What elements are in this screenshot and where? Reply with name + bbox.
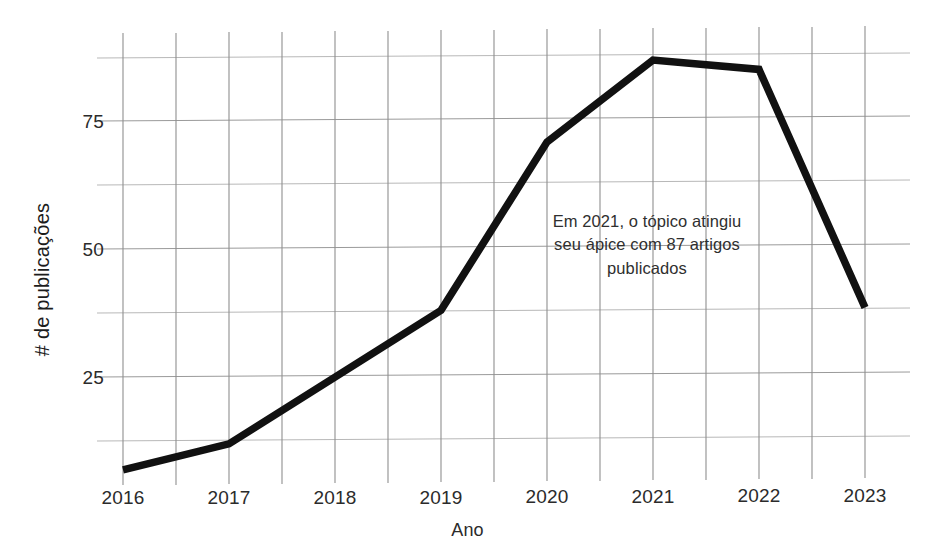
x-axis-tick-2020: 2020 [502,486,592,508]
x-axis-tick-2018: 2018 [290,487,380,509]
x-axis-title: Ano [0,520,935,541]
x-axis-tick-2023: 2023 [820,485,910,507]
horizontal-gridlines [97,53,910,441]
x-axis-tick-2019: 2019 [396,487,486,509]
x-axis-tick-2017: 2017 [184,487,274,509]
y-axis-tick-75: 75 [44,111,104,133]
annotation-line-2: seu ápice com 87 artigos [523,233,771,256]
x-axis-tick-2016: 2016 [78,487,168,509]
annotation-line-3: publicados [523,257,771,280]
y-axis-title: # de publicações [31,170,54,390]
line-chart: 75 50 25 2016 2017 2018 2019 2020 2021 2… [0,0,935,556]
chart-annotation-peak-2021: Em 2021, o tópico atingiu seu ápice com … [523,210,771,280]
x-axis-tick-2022: 2022 [714,485,804,507]
chart-plot-area [0,0,935,556]
x-axis-tick-2021: 2021 [608,486,698,508]
annotation-line-1: Em 2021, o tópico atingiu [523,210,771,233]
